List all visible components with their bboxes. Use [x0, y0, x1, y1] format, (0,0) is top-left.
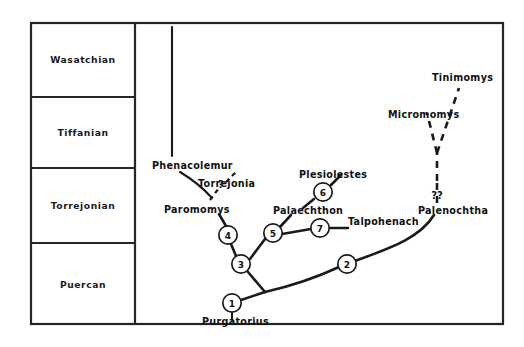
branch-node1-to-basal-split	[241, 292, 265, 300]
branch-basal-to-node3	[248, 272, 265, 292]
taxon-label-purgatorius: Purgatorius	[202, 316, 269, 327]
branch-basal-to-node2	[265, 267, 339, 292]
cladogram-figure: Wasatchian Tiffanian Torrejonian Puercan	[0, 0, 524, 347]
taxon-label-palaechthon: Palaechthon	[273, 205, 343, 216]
node-4-label: 4	[225, 231, 231, 241]
branch-node5-to-node7	[282, 229, 311, 234]
branch-node4-to-paromomys	[219, 214, 226, 226]
node-2-label: 2	[344, 260, 350, 270]
taxon-label-tinimomys: Tinimomys	[432, 72, 493, 83]
branch-node3-to-node5	[250, 239, 265, 259]
node-3[interactable]: 3	[232, 255, 250, 273]
figure-root: Wasatchian Tiffanian Torrejonian Puercan	[0, 0, 524, 347]
epoch-label-tiffanian: Tiffanian	[58, 127, 109, 138]
branch-fork-to-tinimomys	[437, 88, 459, 153]
node-1[interactable]: 1	[223, 294, 241, 312]
epoch-label-torrejonian: Torrejonian	[51, 200, 116, 211]
taxon-label-palenochtha: Palenochtha	[418, 205, 488, 216]
node-3-label: 3	[238, 260, 244, 270]
node-4[interactable]: 4	[219, 226, 237, 244]
node-6[interactable]: 6	[314, 183, 332, 201]
node-2[interactable]: 2	[338, 255, 356, 273]
taxon-label-paromomys: Paromomys	[164, 204, 230, 215]
branch-node3-to-node4	[231, 244, 236, 256]
taxon-label-micromomys: Micromomys	[388, 109, 459, 120]
node-6-label: 6	[320, 188, 326, 198]
node-1-label: 1	[229, 299, 235, 309]
branch-node5-to-palaechthon	[280, 215, 291, 227]
node-7-label: 7	[317, 224, 323, 234]
taxon-label-talpohenach: Talpohenach	[348, 216, 419, 227]
taxon-label-plesiolestes: Plesiolestes	[299, 169, 367, 180]
uncertainty-query-palenochtha: ??	[431, 190, 443, 201]
node-5-label: 5	[270, 229, 276, 239]
node-5[interactable]: 5	[264, 224, 282, 242]
epoch-label-puercan: Puercan	[60, 279, 106, 290]
node-7[interactable]: 7	[311, 219, 329, 237]
taxon-label-phenacolemur: Phenacolemur	[152, 160, 233, 171]
taxon-label-torrejonia: Torrejonia	[198, 178, 255, 189]
epoch-label-wasatchian: Wasatchian	[50, 54, 115, 65]
